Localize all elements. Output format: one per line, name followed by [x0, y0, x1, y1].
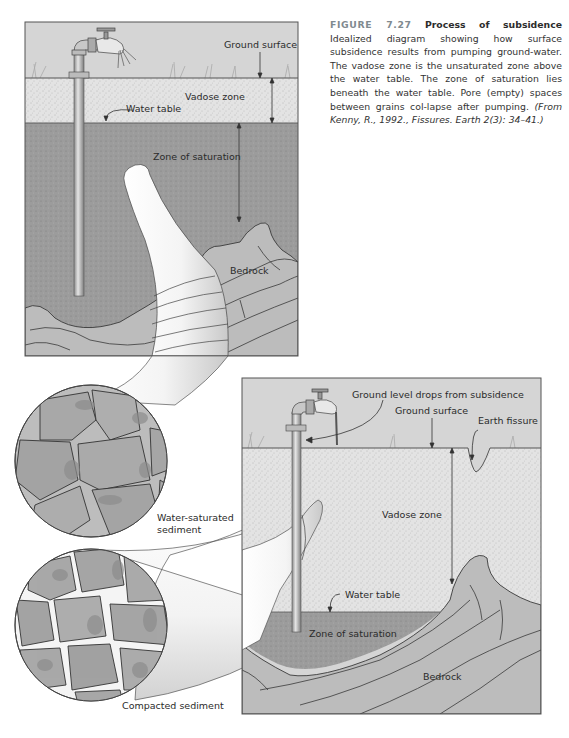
- pipe-flange: [286, 425, 306, 431]
- label-zone-of-saturation: Zone of saturation: [153, 151, 241, 162]
- label-water-saturated-line2: sediment: [157, 524, 202, 535]
- well-pipe: [292, 412, 301, 632]
- label-water-table: Water table: [126, 103, 181, 114]
- subsidence-diagram: Ground surface Vadose zone Water table Z…: [0, 0, 569, 738]
- label-vadose-zone: Vadose zone: [382, 509, 442, 520]
- pipe-flange: [69, 72, 89, 78]
- label-water-table: Water table: [345, 589, 400, 600]
- label-bedrock: Bedrock: [230, 265, 269, 276]
- label-zone-of-saturation: Zone of saturation: [309, 628, 397, 639]
- label-ground-surface: Ground surface: [224, 39, 297, 50]
- label-vadose-zone: Vadose zone: [185, 91, 245, 102]
- label-compacted-sediment: Compacted sediment: [122, 700, 224, 711]
- water-saturated-sediment-inset: [15, 385, 175, 540]
- vadose-zone: [25, 78, 298, 123]
- bottom-panel: Ground level drops from subsidence Groun…: [242, 378, 541, 714]
- well-pipe: [74, 50, 84, 296]
- label-earth-fissure: Earth fissure: [478, 415, 538, 426]
- label-ground-level-drops: Ground level drops from subsidence: [352, 389, 524, 400]
- water-drip: [336, 412, 337, 445]
- label-water-saturated-line1: Water-saturated: [157, 512, 234, 523]
- top-panel: Ground surface Vadose zone Water table Z…: [25, 22, 298, 356]
- label-ground-surface: Ground surface: [395, 405, 468, 416]
- label-bedrock: Bedrock: [423, 671, 462, 682]
